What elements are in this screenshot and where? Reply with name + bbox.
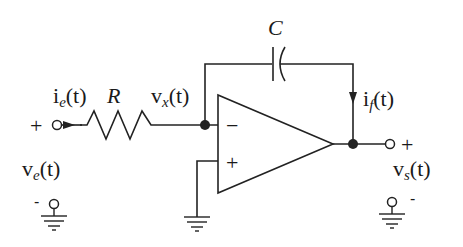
input-minus-sign: - <box>34 193 39 210</box>
feedback-current-label: if(t) <box>363 86 394 113</box>
noninverting-wire <box>197 161 218 217</box>
ground-icon <box>184 217 210 231</box>
opamp-noninverting-sign: + <box>226 150 238 175</box>
feedback-wire-right <box>280 64 353 144</box>
output-plus-sign: + <box>401 132 413 157</box>
opamp <box>218 95 333 193</box>
resistor-label: R <box>106 83 121 108</box>
input-plus-sign: + <box>30 113 42 138</box>
output-minus-sign: - <box>410 190 415 207</box>
node-voltage-label: vx(t) <box>151 83 189 110</box>
output-terminal <box>386 140 395 149</box>
input-current-label: ie(t) <box>53 83 87 110</box>
output-ground-icon <box>379 214 405 228</box>
circuit-diagram: + − + + - <box>0 0 463 247</box>
output-voltage-label: vs(t) <box>393 156 431 183</box>
feedback-wire-left <box>205 64 272 125</box>
capacitor-label: C <box>268 15 283 40</box>
input-ground-terminal <box>50 200 59 209</box>
input-voltage-label: ve(t) <box>22 156 60 183</box>
output-node <box>348 139 358 149</box>
feedback-current-arrow-icon <box>349 92 357 104</box>
circuit-svg: + − + + - <box>0 0 463 247</box>
input-current-arrow-icon <box>62 121 82 129</box>
output-ground-terminal <box>388 198 397 207</box>
input-ground-icon <box>41 216 67 230</box>
input-terminal <box>53 121 62 130</box>
opamp-inverting-sign: − <box>226 113 238 138</box>
resistor <box>80 111 157 139</box>
